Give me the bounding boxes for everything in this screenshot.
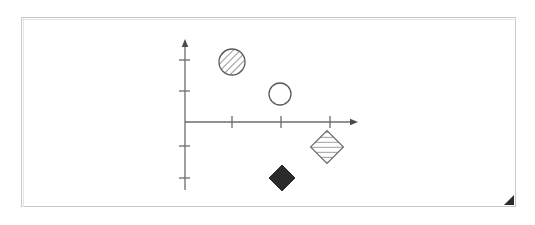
x-axis-arrowhead	[350, 119, 358, 126]
data-point-filled-diamond	[269, 165, 295, 191]
y-axis	[179, 39, 190, 190]
x-axis	[185, 116, 358, 128]
data-point-open-circle	[269, 83, 291, 105]
screenshot-root	[0, 0, 535, 225]
scatter-plot	[0, 0, 535, 225]
y-axis-arrowhead	[182, 39, 189, 47]
data-point-hatched-diamond	[311, 131, 344, 164]
data-point-hatched-circle	[219, 49, 245, 75]
